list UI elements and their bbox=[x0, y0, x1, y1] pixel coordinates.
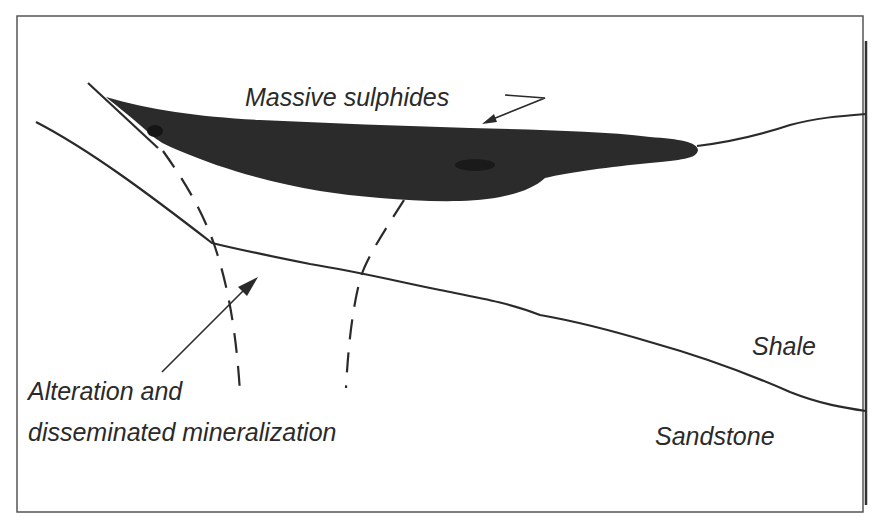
ore-texture-spot bbox=[147, 125, 163, 137]
alteration-boundary-right-dashed bbox=[346, 200, 404, 388]
upper-contact-right bbox=[697, 114, 866, 146]
label-massive-sulphides: Massive sulphides bbox=[245, 83, 449, 111]
label-alteration-line1: Alteration and bbox=[26, 377, 183, 405]
alteration-boundary-left-dashed bbox=[163, 151, 240, 392]
ore-texture-spot bbox=[455, 159, 495, 171]
label-alteration-line2: disseminated mineralization bbox=[28, 418, 336, 446]
massive-sulphides-ore-body bbox=[106, 97, 698, 201]
cross-section-diagram: Massive sulphides Alteration and dissemi… bbox=[0, 0, 883, 528]
label-sandstone: Sandstone bbox=[655, 422, 775, 450]
sulphides-pointer-arrowhead bbox=[482, 114, 497, 124]
label-shale: Shale bbox=[752, 332, 816, 360]
sulphides-pointer-line bbox=[488, 95, 545, 121]
alteration-pointer-line bbox=[162, 284, 250, 372]
